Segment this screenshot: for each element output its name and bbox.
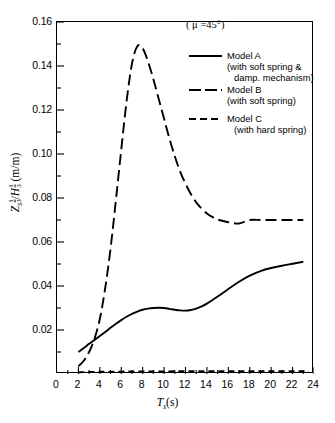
x-tick-label: 10 bbox=[153, 379, 173, 390]
x-tick-label: 14 bbox=[196, 379, 216, 390]
legend-label: Model C bbox=[227, 113, 311, 124]
y-axis-title-frac-1: 13 bbox=[8, 199, 22, 203]
mu-annotation: ( μ =45°) bbox=[186, 19, 225, 30]
series-line-model-c bbox=[78, 371, 308, 372]
x-tick-label: 2 bbox=[67, 379, 87, 390]
x-tick-label: 4 bbox=[89, 379, 109, 390]
legend-swatch-long-dash-icon bbox=[189, 89, 222, 91]
x-tick-label: 8 bbox=[132, 379, 152, 390]
y-tick-label: 0.04 bbox=[18, 280, 52, 291]
y-axis-title-slash: / bbox=[9, 196, 21, 199]
y-tick-label: 0.02 bbox=[18, 324, 52, 335]
y-tick-label: 0.12 bbox=[18, 104, 52, 115]
legend-swatch-short-dash-icon bbox=[189, 118, 222, 120]
x-axis-tick-labels: 024681012141618202224 bbox=[0, 379, 335, 395]
legend-item-model-b[interactable]: Model B(with soft spring) bbox=[189, 84, 311, 106]
x-tick-label: 0 bbox=[46, 379, 66, 390]
legend-description-line-1: (with soft spring) bbox=[227, 95, 311, 106]
legend-label: Model B bbox=[227, 84, 311, 95]
x-tick-label: 18 bbox=[239, 379, 259, 390]
y-tick-label: 0.16 bbox=[18, 16, 52, 27]
x-axis-title: Ts(s) bbox=[0, 396, 335, 411]
x-tick-label: 6 bbox=[110, 379, 130, 390]
legend-description-line-2: damp. mechanism) bbox=[234, 72, 311, 83]
legend-description-line-1: (with hard spring) bbox=[234, 124, 311, 135]
legend-item-model-a[interactable]: Model A(with soft spring &damp. mechanis… bbox=[189, 50, 311, 84]
legend-item-model-c[interactable]: Model C(with hard spring) bbox=[189, 113, 311, 135]
y-axis-title-unit: (m/m) bbox=[9, 153, 21, 182]
legend-description-line-1: (with soft spring & bbox=[227, 61, 311, 72]
legend: Model A(with soft spring &damp. mechanis… bbox=[189, 50, 311, 135]
y-axis-title: Zs13/H13 (m/m) bbox=[8, 122, 25, 242]
y-axis-title-z: Z bbox=[9, 206, 21, 212]
figure-container: 0.020.040.060.080.100.120.140.16 Zs13/H1… bbox=[0, 0, 335, 423]
x-tick-label: 16 bbox=[217, 379, 237, 390]
series-line-model-a bbox=[78, 262, 303, 352]
y-axis-title-frac-2: 13 bbox=[8, 184, 22, 188]
x-tick-label: 20 bbox=[260, 379, 280, 390]
y-axis-title-h: H bbox=[9, 188, 21, 196]
legend-swatch-solid-icon bbox=[189, 55, 222, 57]
x-tick-label: 22 bbox=[282, 379, 302, 390]
legend-spacer bbox=[189, 106, 311, 113]
x-tick-label: 12 bbox=[175, 379, 195, 390]
x-axis-title-unit: (s) bbox=[166, 396, 178, 408]
y-axis-title-z-sub: s bbox=[15, 203, 24, 206]
y-tick-label: 0.14 bbox=[18, 60, 52, 71]
legend-label: Model A bbox=[227, 50, 311, 61]
mu-annotation-text: ( μ =45°) bbox=[186, 19, 225, 30]
x-tick-label: 24 bbox=[303, 379, 323, 390]
